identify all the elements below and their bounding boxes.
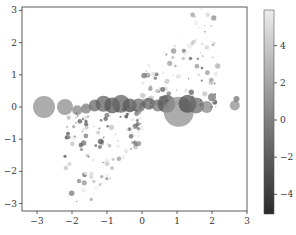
- colorbar: [264, 10, 274, 214]
- data-point: [105, 177, 108, 180]
- data-point: [194, 21, 199, 26]
- data-point: [102, 137, 103, 138]
- data-point: [108, 144, 112, 148]
- data-point: [133, 127, 134, 128]
- data-point: [94, 186, 98, 190]
- data-point: [198, 26, 201, 29]
- colorbar-tick-label: 4: [280, 41, 286, 51]
- data-point: [84, 122, 88, 126]
- data-point: [211, 15, 216, 20]
- data-points: [33, 0, 240, 230]
- data-point: [98, 139, 104, 145]
- data-point: [193, 15, 196, 18]
- data-point: [197, 58, 199, 60]
- data-point: [117, 157, 121, 161]
- data-point: [171, 56, 174, 59]
- data-point: [162, 72, 164, 74]
- data-point: [116, 144, 120, 148]
- y-axis: −3−2−10123: [4, 5, 22, 208]
- data-point: [189, 57, 193, 61]
- data-point: [102, 162, 104, 164]
- data-point: [110, 166, 114, 170]
- data-point: [215, 106, 217, 108]
- data-point: [154, 76, 157, 79]
- data-point: [135, 112, 137, 114]
- x-tick-label: 3: [244, 216, 250, 226]
- bubble: [208, 93, 216, 101]
- data-point: [66, 126, 68, 128]
- data-point: [192, 58, 193, 59]
- data-point: [129, 134, 134, 139]
- bubble: [201, 101, 213, 113]
- data-point: [182, 49, 186, 53]
- data-point: [137, 131, 139, 133]
- data-point: [100, 175, 103, 178]
- data-point: [141, 81, 145, 85]
- data-point: [93, 126, 94, 127]
- data-point: [164, 79, 169, 84]
- bubble: [72, 105, 82, 115]
- data-point: [92, 180, 96, 184]
- data-point: [124, 149, 128, 153]
- data-point: [187, 52, 189, 54]
- data-point: [197, 73, 200, 76]
- data-point: [173, 45, 176, 48]
- data-point: [202, 91, 207, 96]
- data-point: [64, 226, 68, 230]
- data-point: [101, 182, 103, 184]
- data-point: [188, 78, 190, 80]
- colorbar-ticks: 420−2−4: [274, 41, 294, 200]
- data-point: [75, 117, 77, 119]
- data-point: [215, 62, 216, 63]
- data-point: [109, 125, 114, 130]
- data-point: [92, 159, 94, 161]
- data-point: [209, 77, 213, 81]
- data-point: [121, 155, 126, 160]
- data-point: [126, 128, 129, 131]
- data-point: [72, 125, 75, 128]
- bubble: [57, 99, 73, 115]
- data-point: [171, 48, 176, 53]
- colorbar-tick-label: −4: [280, 189, 294, 199]
- data-point: [214, 72, 218, 76]
- data-point: [89, 172, 94, 177]
- data-point: [212, 57, 213, 58]
- data-point: [77, 115, 79, 117]
- data-point: [195, 64, 200, 69]
- bubble: [230, 100, 240, 110]
- data-point: [117, 140, 119, 142]
- bubble: [33, 96, 55, 118]
- data-point: [140, 123, 142, 125]
- data-point: [136, 119, 139, 122]
- data-point: [106, 125, 109, 128]
- data-point: [95, 144, 98, 147]
- x-tick-label: 2: [209, 216, 215, 226]
- y-tick-label: 3: [11, 5, 17, 15]
- data-point: [75, 122, 77, 124]
- data-point: [67, 162, 71, 166]
- data-point: [184, 53, 186, 55]
- y-tick-label: −2: [4, 166, 17, 176]
- data-point: [201, 80, 203, 82]
- data-point: [146, 74, 148, 76]
- data-point: [215, 63, 220, 68]
- data-point: [205, 13, 209, 17]
- data-point: [130, 148, 132, 150]
- data-point: [204, 45, 209, 50]
- colorbar-tick-label: 0: [280, 115, 286, 125]
- data-point: [148, 86, 153, 91]
- y-tick-label: 0: [11, 102, 17, 112]
- data-point: [82, 180, 87, 185]
- data-point: [176, 89, 177, 90]
- data-point: [80, 148, 83, 151]
- data-point: [69, 190, 75, 196]
- data-point: [204, 31, 206, 33]
- data-point: [201, 43, 204, 46]
- data-point: [201, 67, 204, 70]
- data-point: [76, 201, 78, 203]
- data-point: [105, 113, 110, 118]
- data-point: [200, 8, 203, 11]
- data-point: [70, 142, 74, 146]
- x-tick-label: −2: [65, 216, 78, 226]
- data-point: [77, 179, 81, 183]
